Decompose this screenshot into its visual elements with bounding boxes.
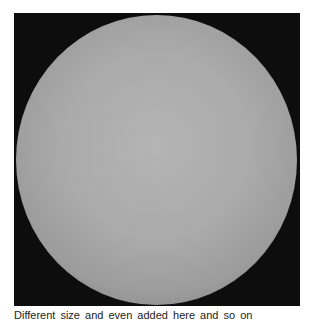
sphere (16, 15, 297, 305)
image-frame (14, 13, 300, 306)
caption: Different size and even added here and s… (14, 309, 314, 322)
